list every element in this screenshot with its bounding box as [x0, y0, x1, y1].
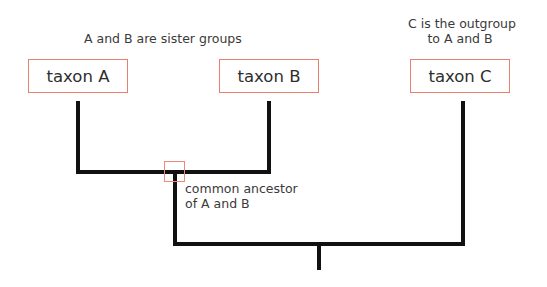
- common-ancestor-marker: [164, 161, 185, 182]
- branch-root-stem: [317, 242, 321, 270]
- taxon-b-box: taxon B: [219, 59, 319, 93]
- branch-b: [267, 101, 271, 174]
- outgroup-caption-line2: to A and B: [408, 31, 512, 46]
- branch-c: [461, 101, 465, 246]
- outgroup-caption-line1: C is the outgroup: [408, 16, 512, 31]
- sister-groups-caption: A and B are sister groups: [84, 31, 242, 46]
- branch-a: [76, 101, 80, 174]
- taxon-c-box: taxon C: [410, 59, 510, 93]
- common-ancestor-label-line2: of A and B: [185, 196, 250, 211]
- common-ancestor-label-line1: common ancestor: [185, 181, 298, 196]
- taxon-a-box: taxon A: [28, 59, 128, 93]
